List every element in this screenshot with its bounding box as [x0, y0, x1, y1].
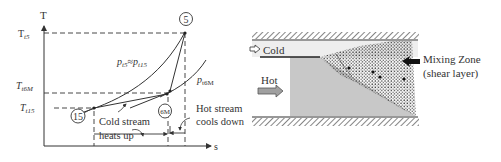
isobar-label-mix: pt6M: [196, 74, 214, 87]
vortex-dot: [378, 75, 381, 78]
vortex-dot: [371, 70, 374, 73]
vortex-dot: [347, 66, 350, 69]
tick-label-t6m: Tt6M: [16, 80, 34, 93]
hot-inlet-label: Hot: [261, 74, 278, 86]
isobar-label-main: pt5≈pt15: [116, 56, 147, 69]
vortex-dot: [402, 77, 405, 80]
svg-text:6M: 6M: [160, 108, 171, 116]
hot-arrow-icon: [258, 85, 283, 97]
figure-canvas: T s Tt5 Tt6M Tt15: [0, 0, 501, 162]
t-axis-label: T: [40, 9, 47, 21]
hot-cools-label: cools down: [196, 116, 245, 127]
tick-label-t5: Tt5: [18, 28, 30, 41]
cold-stream-path: [94, 94, 167, 108]
state-point-6m: 6M: [159, 104, 172, 118]
cold-curved-arrow: [118, 104, 126, 112]
mixing-zone-label: Mixing Zone: [423, 53, 481, 65]
point-6m-dot: [168, 89, 171, 92]
svg-text:15: 15: [73, 111, 83, 122]
bottom-wall-hatch: [252, 118, 419, 126]
leader-15: [84, 108, 93, 113]
shear-layer-label: (shear layer): [423, 67, 479, 80]
cold-stream-label: Cold stream: [99, 116, 150, 127]
hot-stream-label: Hot stream: [196, 103, 242, 114]
cold-heats-label: heats up: [99, 130, 134, 141]
point-6m-dot-lower: [165, 92, 168, 95]
s-axis-label: s: [214, 141, 218, 152]
top-wall-hatch: [252, 32, 419, 39]
state-point-5: 5: [180, 13, 193, 26]
ts-diagram: T s Tt5 Tt6M Tt15: [16, 9, 245, 152]
svg-text:5: 5: [184, 14, 189, 25]
tick-label-t15: Tt15: [20, 102, 35, 115]
state-point-15: 15: [71, 109, 85, 123]
cold-inlet-label: Cold: [263, 44, 285, 56]
mixer-diagram: Cold Hot Mixing Zone (shear layer): [250, 32, 481, 126]
hot-stream-path: [170, 33, 185, 91]
point-5-dot: [183, 31, 186, 34]
